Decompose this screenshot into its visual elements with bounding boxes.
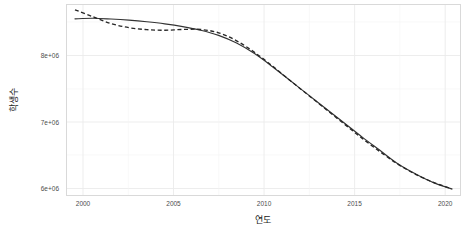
x-tick-label: 2010 <box>257 200 272 207</box>
x-axis-tick-labels: 2000 2005 2010 2015 2020 <box>76 200 453 207</box>
y-axis-tick-labels: 8e+06 7e+06 6e+06 <box>41 52 60 192</box>
y-tick-label: 8e+06 <box>41 52 60 59</box>
chart-container: 8e+06 7e+06 6e+06 2000 2005 2010 2015 20… <box>0 0 469 229</box>
x-tick-label: 2020 <box>438 200 453 207</box>
x-tick-label: 2005 <box>166 200 181 207</box>
plot-panel-background <box>66 4 461 196</box>
y-axis-title: 학생수 <box>9 88 19 112</box>
line-chart: 8e+06 7e+06 6e+06 2000 2005 2010 2015 20… <box>0 0 469 229</box>
y-tick-label: 7e+06 <box>41 119 60 126</box>
x-tick-label: 2000 <box>76 200 91 207</box>
x-tick-label: 2015 <box>347 200 362 207</box>
y-tick-label: 6e+06 <box>41 185 60 192</box>
x-axis-title: 연도 <box>255 215 271 225</box>
